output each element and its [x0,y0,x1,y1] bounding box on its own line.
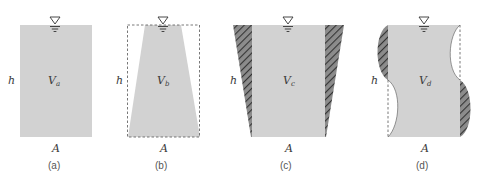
tank-volume-diagram: h V a A (a) h V b A (b) h V c A (c) [0,0,482,184]
caption-d: (d) [416,160,428,171]
hatched-region-right-bottom [460,80,471,137]
panel-d: h V d A (d) [371,17,471,171]
area-label: A [159,142,168,155]
svg-text:c: c [291,80,295,88]
height-label: h [230,74,237,87]
hatched-region-left-top [378,25,389,80]
panel-b: h V b A (b) [116,17,200,171]
panel-c: h V c A (c) [230,17,344,171]
caption-b: (b) [155,160,167,171]
area-label: A [51,142,60,155]
height-label: h [116,74,123,87]
area-label: A [420,142,429,155]
hatched-region-right [325,25,344,137]
height-label: h [8,74,15,87]
caption-a: (a) [48,160,60,171]
svg-text:b: b [165,80,170,88]
panel-a: h V a A (a) [8,17,92,171]
svg-text:a: a [56,80,60,88]
height-label: h [371,74,378,87]
caption-c: (c) [280,160,292,171]
area-label: A [284,142,293,155]
svg-text:d: d [427,80,432,88]
